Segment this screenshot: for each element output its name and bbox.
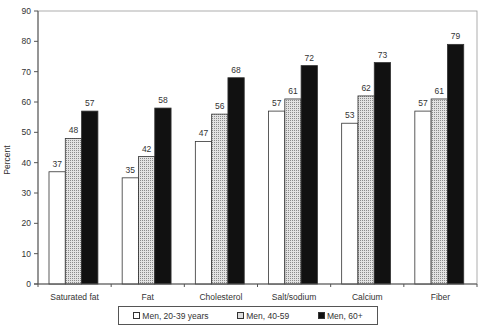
x-category-label: Salt/sodium <box>272 292 316 302</box>
x-category-label: Fiber <box>431 292 451 302</box>
bar <box>358 96 374 284</box>
bar <box>342 123 358 284</box>
bar <box>138 157 154 284</box>
bar-value-label: 62 <box>361 83 371 93</box>
y-tick-label: 90 <box>22 6 32 16</box>
x-category-label: Calcium <box>352 292 383 302</box>
bar <box>122 178 138 284</box>
y-tick-label: 40 <box>22 158 32 168</box>
bar-value-label: 48 <box>69 125 79 135</box>
bars: 374857354258475668576172536273576179 <box>49 31 464 284</box>
bar <box>374 63 390 284</box>
bar-value-label: 61 <box>435 86 445 96</box>
bar-value-label: 35 <box>126 165 136 175</box>
y-tick-label: 50 <box>22 127 32 137</box>
y-axis-label: Percent <box>2 145 12 175</box>
bar <box>195 141 211 284</box>
bar-value-label: 79 <box>451 31 461 41</box>
legend-item-men-40-59: Men, 40-59 <box>237 311 289 321</box>
bar-value-label: 57 <box>85 98 95 108</box>
bar-value-label: 68 <box>231 65 241 75</box>
y-tick-label: 10 <box>22 249 32 259</box>
bar <box>82 111 98 284</box>
black-swatch-icon <box>318 312 325 319</box>
bar-value-label: 56 <box>215 101 225 111</box>
bar <box>415 111 431 284</box>
legend: Men, 20-39 years Men, 40-59 Men, 60+ <box>118 306 378 325</box>
x-category-label: Saturated fat <box>50 292 99 302</box>
bar-value-label: 37 <box>52 159 62 169</box>
bar <box>301 66 317 284</box>
white-swatch-icon <box>133 312 140 319</box>
bar-value-label: 57 <box>272 98 282 108</box>
bar <box>65 138 81 284</box>
dotted-swatch-icon <box>237 312 244 319</box>
bar-value-label: 72 <box>305 53 315 63</box>
bar-value-label: 57 <box>418 98 428 108</box>
bar <box>447 44 463 284</box>
legend-item-men-20-39: Men, 20-39 years <box>133 311 208 321</box>
y-axis: 0102030405060708090 <box>22 6 38 289</box>
bar <box>431 99 447 284</box>
bar <box>285 99 301 284</box>
plot-frame <box>38 11 477 284</box>
y-tick-label: 70 <box>22 67 32 77</box>
legend-label: Men, 40-59 <box>246 311 289 321</box>
bar <box>269 111 285 284</box>
y-tick-label: 60 <box>22 97 32 107</box>
legend-item-men-60-plus: Men, 60+ <box>318 311 363 321</box>
bar <box>155 108 171 284</box>
x-category-label: Fat <box>142 292 155 302</box>
y-tick-label: 0 <box>26 279 31 289</box>
bar <box>212 114 228 284</box>
x-axis: Saturated fatFatCholesterolSalt/sodiumCa… <box>34 284 477 302</box>
bar-value-label: 42 <box>142 144 152 154</box>
bar-value-label: 58 <box>158 95 168 105</box>
y-tick-label: 20 <box>22 218 32 228</box>
bar-chart: 0102030405060708090 37485735425847566857… <box>0 0 486 305</box>
bar <box>49 172 65 284</box>
legend-label: Men, 60+ <box>327 311 363 321</box>
bar-value-label: 61 <box>288 86 298 96</box>
x-category-label: Cholesterol <box>199 292 242 302</box>
legend-label: Men, 20-39 years <box>142 311 208 321</box>
bar-value-label: 73 <box>378 50 388 60</box>
y-tick-label: 80 <box>22 36 32 46</box>
y-tick-label: 30 <box>22 188 32 198</box>
bar-value-label: 53 <box>345 110 355 120</box>
bar-value-label: 47 <box>199 128 209 138</box>
bar <box>228 78 244 284</box>
